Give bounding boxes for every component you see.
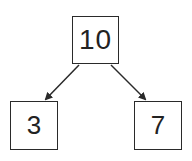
node-right-child: 7 [134,101,182,150]
edge-root-right [111,65,145,99]
node-left-child: 3 [10,101,58,150]
edge-root-left [46,65,79,99]
node-root: 10 [72,16,119,64]
